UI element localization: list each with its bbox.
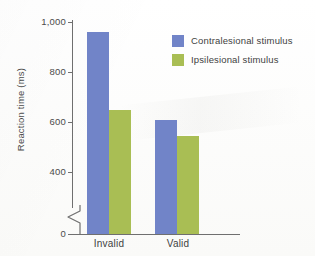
legend-label-ipsilesional: Ipsilesional stimulus: [191, 54, 279, 65]
y-tick-label-1000: 1,000: [41, 16, 66, 27]
legend-swatch-icon-ipsilesional: [172, 54, 184, 66]
x-category-label-valid: Valid: [149, 238, 207, 249]
y-tick-label-800: 800: [50, 66, 66, 77]
bar-valid-ipsilesional[interactable]: [177, 136, 199, 234]
y-tick-label-600: 600: [50, 116, 66, 127]
reaction-time-bar-chart: Reaction time (ms) 1,000 800 600 400 0 I…: [0, 0, 315, 256]
y-tick-label-0: 0: [61, 228, 66, 239]
y-tick-mark-800: [68, 72, 72, 73]
y-tick-mark-1000: [68, 22, 72, 23]
chart-legend: Contralesional stimulus Ipsilesional sti…: [172, 31, 293, 69]
y-tick-label-400: 400: [50, 166, 66, 177]
bar-invalid-ipsilesional[interactable]: [109, 110, 131, 235]
y-tick-mark-400: [68, 172, 72, 173]
legend-label-contralesional: Contralesional stimulus: [191, 35, 293, 46]
x-category-label-invalid: Invalid: [79, 238, 139, 249]
legend-item-contralesional[interactable]: Contralesional stimulus: [172, 31, 293, 50]
x-axis-line: [72, 234, 240, 235]
y-tick-mark-0: [68, 234, 72, 235]
axis-break-icon: [64, 205, 82, 235]
legend-swatch-icon-contralesional: [172, 35, 184, 47]
bar-valid-contralesional[interactable]: [155, 120, 177, 234]
bar-invalid-contralesional[interactable]: [87, 32, 109, 234]
y-axis-line: [72, 20, 73, 208]
legend-item-ipsilesional[interactable]: Ipsilesional stimulus: [172, 50, 293, 69]
y-tick-mark-600: [68, 122, 72, 123]
